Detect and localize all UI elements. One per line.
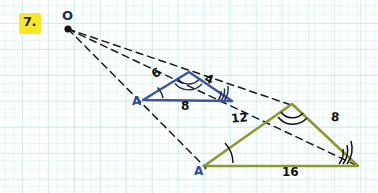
large-triangle <box>204 104 358 166</box>
small-triangle-outline <box>143 72 232 101</box>
large-triangle-outline <box>204 104 358 166</box>
geometry-diagram <box>0 0 378 193</box>
center-point-O <box>64 25 71 32</box>
ray-to-apex <box>68 29 294 106</box>
small-triangle <box>143 72 232 101</box>
dilation-rays-group <box>68 29 360 168</box>
ray-to-right-vertex <box>68 29 360 167</box>
ray-to-A-Aprime <box>68 29 206 168</box>
